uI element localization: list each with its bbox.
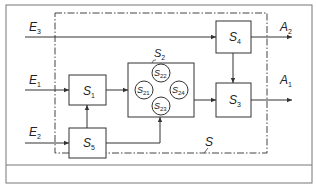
system-label: S (205, 135, 213, 149)
input-e1-label: E1 (29, 73, 41, 88)
input-e2-label: E2 (29, 125, 41, 140)
output-a1-label: A1 (279, 73, 292, 88)
output-a2-label: A2 (279, 20, 292, 35)
block-s2-label: S2 (154, 47, 165, 61)
arrow-s5-s2 (106, 117, 160, 143)
input-e3-label: E3 (29, 20, 41, 35)
system-diagram: S S1 S5 S2 S4 S3 S22 S21 S24 S23 E3 E1 E… (0, 0, 316, 188)
